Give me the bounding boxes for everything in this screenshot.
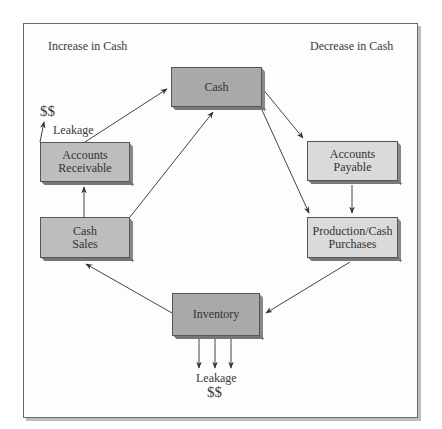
node-accounts-payable: Accounts Payable	[307, 141, 398, 181]
node-ar-line2: Receivable	[58, 162, 111, 175]
node-production-line1: Production/Cash	[313, 225, 393, 238]
node-cashsales-line2: Sales	[72, 238, 97, 251]
leakage-bottom-amount: $$	[207, 384, 222, 401]
arrow-cash-to-ap	[262, 88, 303, 138]
node-production-line2: Purchases	[329, 238, 377, 251]
flow-arrows	[0, 0, 442, 429]
node-inventory-label: Inventory	[193, 308, 240, 321]
arrow-production-to-inventory	[266, 262, 350, 313]
arrow-ar-to-cash	[85, 89, 167, 142]
arrow-cash-to-production	[262, 110, 309, 213]
node-cash-sales: Cash Sales	[40, 217, 130, 258]
arrow-inventory-to-cashsales	[86, 264, 172, 313]
node-cash: Cash	[171, 67, 262, 107]
arrow-cashsales-to-cash	[130, 112, 213, 217]
node-ap-line2: Payable	[334, 161, 372, 174]
arrow-ar-leakage	[40, 122, 44, 142]
leakage-top-amount: $$	[40, 103, 55, 120]
node-accounts-receivable: Accounts Receivable	[40, 142, 130, 182]
node-production-cash-purchases: Production/Cash Purchases	[307, 217, 398, 258]
node-inventory: Inventory	[172, 293, 260, 336]
node-cashsales-line1: Cash	[73, 225, 97, 238]
leakage-top-label: Leakage	[53, 123, 94, 138]
node-cash-label: Cash	[205, 81, 229, 94]
